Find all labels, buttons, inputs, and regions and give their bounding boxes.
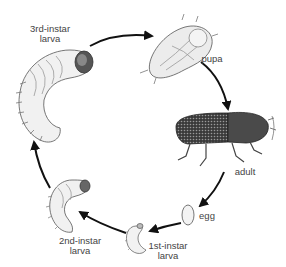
label-second-instar: 2nd-instarlarva bbox=[59, 235, 101, 256]
first-instar-larva-illustration bbox=[125, 224, 146, 254]
arrow-third-to-pupa bbox=[90, 35, 152, 46]
arrow-egg-to-first bbox=[150, 223, 181, 231]
second-instar-larva-illustration bbox=[46, 180, 90, 232]
label-pupa: pupa bbox=[201, 53, 223, 64]
label-egg: egg bbox=[199, 210, 215, 221]
label-first-instar: 1st-instarlarva bbox=[148, 240, 187, 261]
adult-beetle-illustration bbox=[176, 112, 276, 166]
label-third-instar: 3rd-instarlarva bbox=[30, 23, 70, 44]
egg-illustration bbox=[182, 205, 194, 225]
life-cycle-diagram: 3rd-instarlarva pupa adult egg 1st-insta… bbox=[0, 0, 286, 267]
arrow-first-to-second bbox=[80, 212, 126, 233]
arrow-pupa-to-adult bbox=[201, 62, 228, 109]
third-instar-larva-illustration bbox=[16, 50, 93, 142]
pupa-illustration bbox=[140, 14, 218, 84]
arrow-adult-to-egg bbox=[200, 172, 224, 206]
label-adult: adult bbox=[235, 166, 256, 177]
arrow-second-to-third bbox=[34, 142, 50, 188]
